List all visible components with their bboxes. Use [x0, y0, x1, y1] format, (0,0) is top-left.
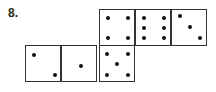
die-face-bottom-2: [61, 45, 97, 82]
pip-dot: [162, 26, 166, 30]
pip-dot: [126, 73, 130, 77]
pip-dot: [198, 36, 202, 40]
pip-dot: [106, 36, 110, 40]
pip-dot: [106, 16, 110, 20]
die-face-top-2: [135, 9, 171, 46]
pip-dot: [142, 36, 146, 40]
pip-dot: [142, 16, 146, 20]
pip-dot: [79, 64, 83, 68]
die-face-top-3: [171, 9, 207, 46]
pip-dot: [126, 36, 130, 40]
pip-dot: [105, 52, 109, 56]
die-face-top-1: [99, 9, 135, 46]
pip-dot: [32, 53, 36, 57]
pip-dot: [126, 16, 130, 20]
pip-dot: [162, 16, 166, 20]
pip-dot: [142, 26, 146, 30]
pip-dot: [105, 73, 109, 77]
pip-dot: [178, 14, 182, 18]
pip-dot: [53, 73, 57, 77]
pip-dot: [162, 36, 166, 40]
problem-number: 8.: [8, 6, 18, 20]
pip-dot: [188, 25, 192, 29]
pip-dot: [126, 52, 130, 56]
die-face-bottom-3: [99, 45, 135, 82]
die-face-bottom-1: [25, 45, 61, 82]
pip-dot: [115, 62, 119, 66]
